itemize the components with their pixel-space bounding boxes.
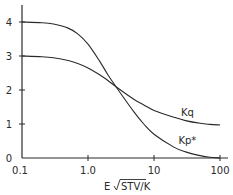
axes	[19, 5, 228, 161]
x-tick-label: 0.1	[12, 165, 28, 176]
curve-label-kq: Kq	[181, 107, 194, 118]
x-tick-label: 100	[210, 165, 229, 176]
y-tick-label: 2	[6, 85, 12, 96]
x-axis-label-prefix: E	[104, 181, 110, 192]
y-tick-label: 0	[6, 153, 12, 164]
labels: 012340.11.010100ESTV/KKqKp*	[6, 17, 230, 193]
y-tick-label: 1	[6, 119, 12, 130]
x-tick-label: 1.0	[80, 165, 96, 176]
y-tick-label: 3	[6, 51, 12, 62]
curve-label-kp: Kp*	[178, 135, 196, 146]
chart: 012340.11.010100ESTV/KKqKp*	[0, 0, 233, 195]
x-axis-label: ESTV/K	[104, 180, 151, 193]
y-tick-label: 4	[6, 17, 12, 28]
x-axis-label-radicand: STV/K	[121, 181, 151, 192]
x-tick-label: 10	[148, 165, 161, 176]
